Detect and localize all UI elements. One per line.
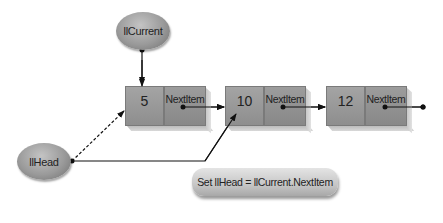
- node-next-label: NextItem: [266, 93, 305, 105]
- node-bottom-edge: [227, 126, 313, 131]
- node-right-edge: [206, 88, 211, 133]
- assignment-statement-box: Set llHead = llCurrent.NextItem: [192, 168, 338, 196]
- node-value: 10: [237, 93, 253, 125]
- node-right-edge: [407, 88, 412, 133]
- current-pointer-oval: llCurrent: [116, 12, 170, 50]
- current-to-node0-arrow: [140, 48, 145, 85]
- node-value: 12: [338, 93, 354, 125]
- node-value-cell: 10: [225, 86, 264, 126]
- current-pointer-label: llCurrent: [124, 25, 163, 37]
- assignment-statement: Set llHead = llCurrent.NextItem: [197, 176, 333, 188]
- list-node-1: 10 NextItem: [225, 86, 311, 126]
- list-node-2: 12 NextItem: [326, 86, 412, 126]
- node-value-cell: 5: [125, 86, 164, 126]
- node-next-label: NextItem: [166, 93, 205, 105]
- node-next-label: NextItem: [367, 93, 406, 105]
- list-node-0: 5 NextItem: [125, 86, 211, 126]
- head-pointer-oval: llHead: [17, 143, 71, 180]
- node-next-cell: NextItem: [365, 86, 407, 126]
- node-next-cell: NextItem: [164, 86, 206, 126]
- node-next-cell: NextItem: [264, 86, 306, 126]
- node-bottom-edge: [127, 126, 213, 131]
- head-pointer-label: llHead: [29, 156, 58, 168]
- node-bottom-edge: [328, 126, 414, 131]
- node-right-edge: [306, 88, 311, 133]
- node-value: 5: [141, 93, 149, 125]
- node-value-cell: 12: [326, 86, 365, 126]
- head-to-node0-dashed-arrow: [72, 111, 124, 161]
